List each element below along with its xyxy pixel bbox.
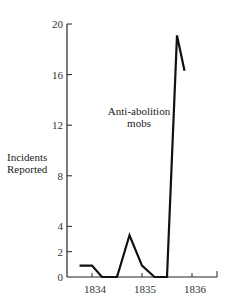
y-tick-label: 20 bbox=[52, 18, 64, 30]
x-tick-label: 1836 bbox=[184, 283, 207, 295]
y-tick-label: 2 bbox=[58, 246, 64, 258]
y-tick-label: 8 bbox=[58, 170, 64, 182]
y-axis-ticks: 0248121620 bbox=[52, 18, 72, 283]
series-annotation-line2: mobs bbox=[127, 117, 151, 129]
series-lines bbox=[80, 35, 185, 277]
x-tick-label: 1835 bbox=[134, 283, 157, 295]
line-chart: 0248121620 183418351836 Incidents Report… bbox=[0, 0, 227, 302]
y-tick-label: 12 bbox=[52, 119, 63, 131]
series-line-anti-abolition-mobs bbox=[80, 35, 185, 277]
axes bbox=[67, 24, 217, 277]
y-tick-label: 4 bbox=[58, 220, 64, 232]
y-tick-label: 16 bbox=[52, 69, 64, 81]
x-tick-label: 1834 bbox=[84, 283, 107, 295]
y-axis-label-line1: Incidents bbox=[7, 151, 47, 163]
y-tick-label: 0 bbox=[58, 271, 64, 283]
y-axis-label-line2: Reported bbox=[7, 163, 48, 175]
series-annotation-line1: Anti-abolition bbox=[108, 105, 171, 117]
